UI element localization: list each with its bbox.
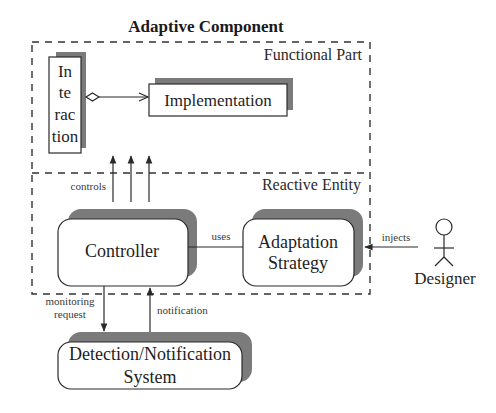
notification-label: notification (157, 304, 208, 316)
designer-actor[interactable]: Designer (414, 219, 476, 288)
diagram-title: Adaptive Component (128, 17, 284, 36)
monitoring-request-label-line-2: request (54, 308, 86, 320)
controls-edges: controls (71, 156, 149, 202)
controller-label: Controller (85, 241, 159, 261)
reactive-entity-label: Reactive Entity (262, 176, 361, 194)
adaptation-strategy-label-line-1: Adaptation (258, 232, 338, 252)
injects-label: injects (382, 231, 411, 243)
interaction-label-line-2: te (59, 83, 71, 102)
monitoring-request-edge: monitoring request (46, 286, 104, 331)
functional-part-label: Functional Part (264, 46, 363, 63)
interaction-label-line-3: rac (55, 105, 76, 124)
stick-figure-icon (434, 219, 454, 266)
interaction-label-line-1: In (58, 62, 73, 81)
diagram-svg: Adaptive Component Functional Part React… (0, 0, 496, 413)
detection-notification-system-box[interactable]: Detection/Notification System (58, 332, 252, 389)
designer-label: Designer (414, 269, 476, 288)
detection-label-line-2: System (123, 367, 176, 387)
interaction-label-line-4: tion (52, 127, 79, 146)
injects-edge: injects (365, 231, 418, 247)
uses-label: uses (212, 230, 231, 242)
aggregation-edge (86, 93, 148, 101)
adaptive-component-diagram: Adaptive Component Functional Part React… (0, 0, 496, 413)
adaptation-strategy-label-line-2: Strategy (268, 253, 328, 273)
controls-label: controls (71, 180, 106, 192)
interaction-box[interactable]: In te rac tion (49, 52, 86, 153)
monitoring-request-label-line-1: monitoring (46, 295, 95, 307)
detection-label-line-1: Detection/Notification (69, 344, 231, 364)
aggregation-diamond-icon (86, 93, 99, 101)
adaptation-strategy-box[interactable]: Adaptation Strategy (243, 209, 363, 286)
controller-box[interactable]: Controller (58, 209, 197, 286)
implementation-label: Implementation (164, 91, 272, 110)
implementation-box[interactable]: Implementation (149, 78, 293, 116)
